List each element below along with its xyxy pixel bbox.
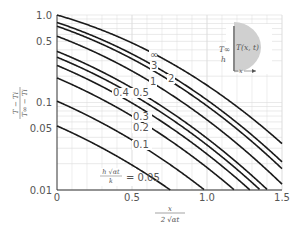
curve-label: 0.1 (133, 139, 149, 150)
curve-labels: ∞3210.50.40.30.20.1 (112, 49, 175, 150)
curve-label: 0.4 (113, 87, 129, 98)
curve-label: 0.5 (133, 87, 149, 98)
x-axis-label: x 2 √αt (155, 205, 185, 224)
x-label-numerator: x (168, 205, 172, 213)
y-axis-label: T − Ti T∞ − Ti (12, 87, 29, 119)
x-tick-labels: 00.51.01.5 (54, 192, 290, 203)
param-value: = 0.05 (126, 172, 160, 183)
inset-diagram: T∞ h T(x, t) x (219, 22, 272, 75)
param-denominator: k (109, 177, 113, 185)
y-label-denominator: T∞ − Ti (21, 89, 29, 117)
inset-t-infinity: T∞ (219, 45, 230, 54)
y-tick-label: 0.5 (36, 36, 52, 47)
x-label-denominator: 2 √αt (160, 216, 180, 224)
y-label-numerator: T − Ti (12, 92, 20, 114)
y-tick-labels: 0.010.050.10.51.0 (30, 10, 52, 196)
inset-t-xt: T(x, t) (236, 43, 259, 52)
inset-x: x (239, 67, 243, 75)
curve-label: 1 (150, 76, 156, 87)
curve-label: 3 (151, 60, 157, 71)
y-tick-label: 1.0 (36, 10, 52, 21)
x-tick-label: 0.5 (124, 192, 140, 203)
curve-label: 2 (168, 73, 174, 84)
parameter-label: h √αt k = 0.05 (98, 168, 160, 186)
y-tick-label: 0.05 (30, 123, 52, 134)
param-numerator: h √αt (102, 168, 120, 176)
x-tick-label: 1.5 (274, 192, 290, 203)
inset-h: h (221, 55, 226, 64)
y-tick-label: 0.01 (30, 185, 52, 196)
x-tick-label: 0 (54, 192, 60, 203)
chart: 0.010.050.10.51.0 00.51.01.5 ∞3210.50.40… (0, 0, 298, 228)
curve-label: ∞ (150, 49, 158, 60)
curve-label: 0.3 (133, 111, 149, 122)
curve-label: 0.2 (133, 122, 149, 133)
y-tick-label: 0.1 (36, 97, 52, 108)
x-tick-label: 1.0 (199, 192, 215, 203)
